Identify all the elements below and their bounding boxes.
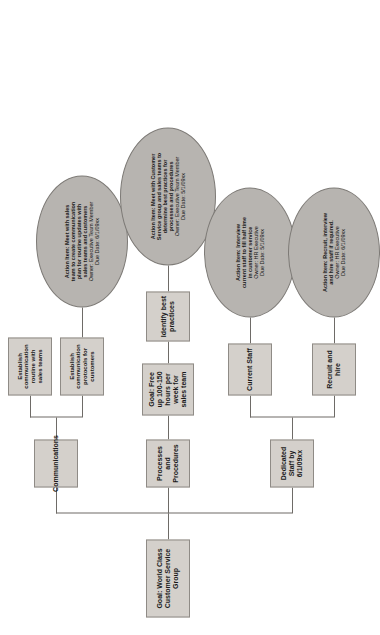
action-item-current-staff-line-2: current staff to fill half time [241, 217, 247, 288]
node-subgoal-free-up-hours-label: Goal: Free up 100-150 hours per week for… [148, 367, 187, 411]
connector-communications-vertical [30, 416, 82, 417]
connector-staff-action1 [250, 317, 251, 343]
node-recruit-and-hire-label: Recruit and hire [326, 347, 342, 391]
action-item-current-staff[interactable]: Action Item: Interview current staff to … [204, 187, 296, 317]
connector-spine-dedicated-staff [292, 487, 293, 513]
connector-spine-vertical [56, 512, 292, 513]
connector-staff-child1 [250, 395, 251, 417]
action-item-communications-line-1: Action Item: Meet with sales [64, 201, 70, 281]
action-item-current-staff-line-5: Due Date: 5/1/09xx [259, 217, 265, 288]
node-recruit-and-hire[interactable]: Recruit and hire [312, 343, 356, 395]
action-item-processes[interactable]: Action Item: Meet with Customer Service … [120, 127, 216, 265]
action-item-recruit-line-1: Action Item: Recruit, interview [322, 212, 328, 291]
node-branch-communications[interactable]: Communications [34, 439, 78, 487]
connector-processes-subgoal [168, 415, 169, 439]
node-current-staff-label: Current Staff [246, 348, 254, 391]
connector-communications-child1 [30, 395, 31, 417]
node-establish-routine-label: Establish communication routine with sal… [17, 341, 44, 391]
node-branch-dedicated-staff-label: Dedicated Staff by 6/1/09xx [280, 443, 303, 483]
action-item-recruit-and-hire[interactable]: Action Item: Recruit, interview and hire… [288, 187, 380, 317]
connector-root-spine [168, 513, 169, 539]
connector-processes-action [168, 265, 169, 291]
action-item-current-staff-line-1: Action Item: Interview [235, 217, 241, 288]
connector-staff-action2 [334, 317, 335, 343]
connector-spine-processes [168, 487, 169, 513]
node-establish-protocols[interactable]: Establish communication protocols for cu… [60, 337, 104, 395]
action-item-processes-line-1: Action Item: Meet with Customer [150, 152, 156, 239]
action-item-recruit-line-4: Due Date: 6/1/09xx [340, 212, 346, 291]
connector-communications-child2 [82, 395, 83, 417]
action-item-communications[interactable]: Action Item: Meet with sales team to cre… [36, 175, 128, 307]
connector-staff-child2 [334, 395, 335, 417]
node-root-goal-label: Goal: World Class Customer Service Group [156, 543, 179, 613]
node-establish-routine[interactable]: Establish communication routine with sal… [8, 337, 52, 395]
action-item-communications-line-2: team to create communication [70, 201, 76, 281]
node-root-goal[interactable]: Goal: World Class Customer Service Group [146, 539, 190, 617]
node-branch-processes-label: Processes and Procedures [156, 443, 179, 483]
node-identify-best-practices-label: Identify best practices [160, 295, 176, 337]
connector-staff-vertical [250, 416, 334, 417]
connector-processes-child [168, 341, 169, 363]
node-branch-processes[interactable]: Processes and Procedures [146, 439, 190, 487]
node-branch-dedicated-staff[interactable]: Dedicated Staff by 6/1/09xx [270, 439, 314, 487]
action-item-communications-line-6: Due Date: 6/1/09xx [94, 201, 100, 281]
node-current-staff[interactable]: Current Staff [228, 343, 272, 395]
action-item-processes-line-6: Due Date: 5/1/09xx [180, 152, 186, 239]
node-subgoal-free-up-hours[interactable]: Goal: Free up 100-150 hours per week for… [142, 363, 194, 415]
node-branch-communications-label: Communications [52, 435, 60, 492]
node-identify-best-practices[interactable]: Identify best practices [146, 291, 190, 341]
connector-staff-out [292, 417, 293, 439]
node-establish-protocols-label: Establish communication protocols for cu… [69, 341, 96, 391]
connector-communications-action [82, 307, 83, 337]
action-item-processes-line-2: Service group and sales teams to [156, 152, 162, 239]
